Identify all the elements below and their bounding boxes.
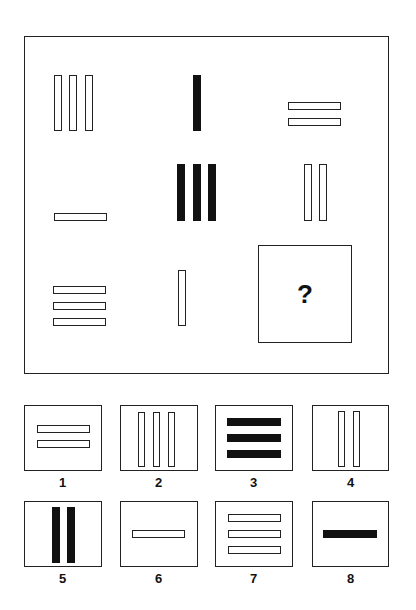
option-2-label: 2 [120, 475, 197, 490]
cell-r1c1-bar-3 [85, 75, 93, 131]
cell-r1c3-bar-1 [288, 102, 341, 110]
option-5-bar-2 [67, 507, 75, 563]
option-4-bar-2 [353, 411, 360, 467]
cell-r1c2-bar-1 [193, 75, 201, 131]
option-5-label: 5 [24, 571, 101, 586]
option-7-bar-2 [228, 530, 281, 538]
cell-r3c1-bar-3 [53, 318, 106, 326]
cell-r1c3-bar-2 [288, 118, 341, 126]
option-6-label: 6 [120, 571, 197, 586]
missing-cell: ? [258, 245, 352, 343]
option-8-label: 8 [312, 571, 389, 586]
option-3-label: 3 [215, 475, 292, 490]
cell-r2c2-bar-1 [177, 164, 185, 221]
cell-r2c1-bar-1 [54, 213, 107, 221]
cell-r3c1-bar-2 [53, 302, 106, 310]
option-3-bar-1 [227, 418, 281, 426]
cell-r3c1-bar-1 [53, 286, 106, 294]
cell-r3c2-bar-1 [178, 270, 186, 326]
option-4-bar-1 [338, 411, 345, 467]
option-4[interactable] [312, 405, 389, 471]
cell-r2c2-bar-3 [208, 164, 216, 221]
option-7-bar-3 [228, 546, 281, 554]
option-2-bar-2 [153, 412, 160, 467]
option-5[interactable] [24, 501, 102, 567]
option-1[interactable] [24, 405, 102, 471]
cell-r1c1-bar-1 [54, 75, 62, 131]
option-1-label: 1 [24, 475, 101, 490]
option-7-bar-1 [228, 514, 281, 522]
option-3-bar-3 [227, 450, 281, 458]
cell-r2c2-bar-2 [193, 164, 201, 221]
option-5-bar-1 [52, 507, 60, 563]
cell-r2c3-bar-2 [319, 164, 327, 221]
option-7-label: 7 [215, 571, 292, 586]
option-8-bar-1 [323, 530, 377, 538]
option-4-label: 4 [312, 475, 389, 490]
option-1-bar-2 [37, 440, 90, 448]
option-1-bar-1 [37, 425, 90, 433]
option-6-bar-1 [132, 530, 185, 538]
option-2-bar-1 [138, 412, 145, 467]
option-2-bar-3 [168, 412, 175, 467]
option-3-bar-2 [227, 434, 281, 442]
cell-r1c1-bar-2 [69, 75, 77, 131]
cell-r2c3-bar-1 [304, 164, 312, 221]
question-mark: ? [297, 279, 313, 310]
